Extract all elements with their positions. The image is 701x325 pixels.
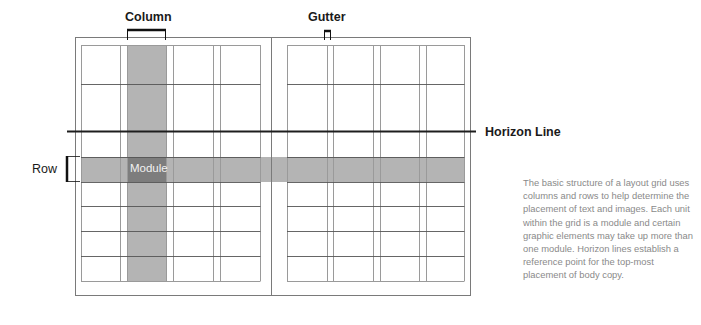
module-label: Module — [130, 163, 168, 175]
row-label: Row — [32, 163, 57, 176]
gutter-label: Gutter — [308, 11, 346, 24]
column-label: Column — [125, 11, 172, 24]
row-bracket — [67, 156, 80, 182]
grid-description: The basic structure of a layout grid use… — [523, 176, 695, 282]
horizon-line-label: Horizon Line — [485, 126, 561, 139]
gutter-bracket — [324, 31, 331, 40]
column-bracket — [127, 30, 166, 40]
